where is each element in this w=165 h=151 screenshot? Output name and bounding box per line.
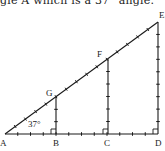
similar-triangles-diagram: 37° A B C D E F G [0,0,165,151]
point-label-e: E [159,10,165,20]
right-angle-markers [51,129,158,134]
triangle-lines [5,22,158,134]
point-label-b: B [53,138,59,148]
hypotenuse-AE-line [5,22,158,134]
point-label-f: F [97,49,102,59]
point-label-a: A [0,138,7,148]
right-angle-marker-d [153,129,158,134]
point-label-d: D [155,138,162,148]
point-label-c: C [104,138,110,148]
angle-label: 37° [28,119,41,129]
point-label-g: G [46,88,53,98]
right-angle-marker-b [51,129,56,134]
